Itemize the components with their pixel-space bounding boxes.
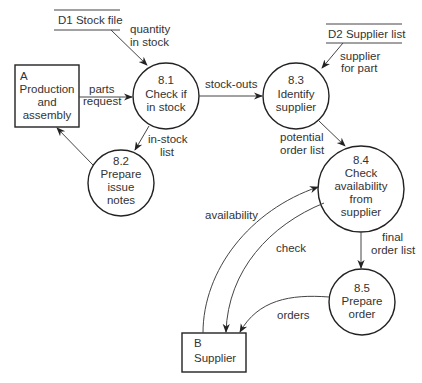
store-label: D2 Supplier list xyxy=(328,28,406,40)
process-label-line: Prepare xyxy=(101,168,142,180)
process-id: 8.2 xyxy=(113,155,129,167)
data-store-d2[interactable]: D2 Supplier list xyxy=(326,24,406,43)
process-label-line: supplier xyxy=(276,101,316,113)
flow-label-line: list xyxy=(160,146,175,158)
store-label: D1 Stock file xyxy=(58,14,123,26)
process-label-line: Check xyxy=(345,167,378,179)
entity-id: B xyxy=(194,337,202,349)
process-8-1[interactable]: 8.1 Check if in stock xyxy=(133,63,199,129)
flow-label-line: check xyxy=(276,242,306,254)
flow-label-line: parts xyxy=(89,83,115,95)
flow-in-stock-list[interactable]: in-stock list xyxy=(135,126,188,158)
entity-label-line: Production xyxy=(20,83,75,95)
process-label-line: supplier xyxy=(341,206,381,218)
flow-label-line: for part xyxy=(341,62,378,74)
process-label-line: from xyxy=(350,193,373,205)
flow-supplier-for-part[interactable]: supplier for part xyxy=(322,43,380,74)
process-id: 8.4 xyxy=(353,154,370,166)
flow-parts-request[interactable]: parts request xyxy=(79,83,132,107)
flow-label-line: in-stock xyxy=(148,133,188,145)
flow-label-line: orders xyxy=(277,309,310,321)
flow-label-line: stock-outs xyxy=(205,78,258,90)
process-id: 8.3 xyxy=(288,74,304,86)
flow-orders[interactable]: orders xyxy=(240,296,329,332)
flow-label-line: potential xyxy=(280,131,323,143)
process-label-line: notes xyxy=(107,194,135,206)
entity-supplier[interactable]: B Supplier xyxy=(182,333,246,372)
process-label-line: Check if xyxy=(145,88,187,100)
data-store-d1[interactable]: D1 Stock file xyxy=(54,10,123,30)
flow-label-line: request xyxy=(83,95,122,107)
flow-stock-outs[interactable]: stock-outs xyxy=(199,78,262,96)
flow-label-line: order list xyxy=(371,244,416,256)
process-8-4[interactable]: 8.4 Check availability from supplier xyxy=(318,146,404,232)
process-id: 8.1 xyxy=(158,74,174,86)
process-8-5[interactable]: 8.5 Prepare order xyxy=(329,269,395,335)
process-label-line: availability xyxy=(334,180,387,192)
flow-label-line: in stock xyxy=(130,36,169,48)
data-flow-diagram: D1 Stock file D2 Supplier list A Product… xyxy=(0,0,422,383)
flow-issue-notes[interactable] xyxy=(57,128,93,165)
process-label-line: Identify xyxy=(277,88,314,100)
flow-label-line: order list xyxy=(280,144,325,156)
process-label-line: Prepare xyxy=(342,295,383,307)
flow-label-line: availability xyxy=(205,209,258,221)
entity-label-line: Supplier xyxy=(194,352,236,364)
process-8-2[interactable]: 8.2 Prepare issue notes xyxy=(88,150,154,216)
entity-label-line: assembly xyxy=(23,109,72,121)
flow-final-order-list[interactable]: final order list xyxy=(361,231,416,268)
flow-label-line: supplier xyxy=(340,50,380,62)
flow-quantity-in-stock[interactable]: quantity in stock xyxy=(111,23,171,65)
process-label-line: issue xyxy=(108,181,135,193)
flow-label-line: quantity xyxy=(130,23,171,35)
entity-production-assembly[interactable]: A Production and assembly xyxy=(15,65,79,127)
process-label-line: order xyxy=(349,308,376,320)
process-8-3[interactable]: 8.3 Identify supplier xyxy=(263,63,329,129)
process-id: 8.5 xyxy=(354,282,370,294)
process-label-line: in stock xyxy=(147,101,186,113)
entity-label-line: and xyxy=(37,96,56,108)
entity-id: A xyxy=(20,70,28,82)
flow-label-line: final xyxy=(382,231,403,243)
